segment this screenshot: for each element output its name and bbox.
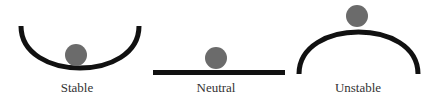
neutral-flat-surface bbox=[153, 70, 285, 75]
unstable-arch-surface bbox=[299, 32, 418, 74]
neutral-ball bbox=[205, 47, 227, 69]
stable-figure bbox=[21, 26, 139, 68]
neutral-figure bbox=[153, 47, 285, 75]
neutral-label: Neutral bbox=[176, 80, 256, 96]
unstable-figure bbox=[299, 5, 418, 74]
stable-ball bbox=[65, 44, 87, 66]
stable-label: Stable bbox=[37, 80, 117, 96]
unstable-label: Unstable bbox=[318, 80, 398, 96]
unstable-ball bbox=[346, 5, 368, 27]
